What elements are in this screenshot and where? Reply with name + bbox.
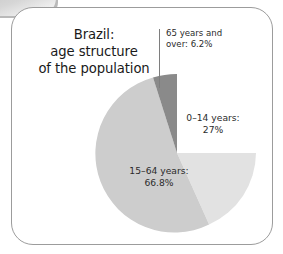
slice-label-youth-line2: 27% (184, 124, 242, 136)
title-line-2: age structure (20, 43, 168, 60)
slice-label-youth: 0–14 years: 27% (184, 112, 242, 136)
slice-label-adults: 15–64 years: 66.8% (124, 165, 194, 189)
slice-label-adults-line2: 66.8% (124, 177, 194, 189)
slice-label-adults-line1: 15–64 years: (124, 165, 194, 177)
title-line-1: Brazil: (20, 26, 168, 43)
figure-card: Brazil: age structure of the population … (11, 7, 273, 245)
page-title: Brazil: age structure of the population (20, 26, 168, 77)
title-line-3: of the population (20, 60, 168, 77)
slice-label-seniors: 65 years and over: 6.2% (166, 28, 222, 50)
pie-chart (87, 63, 267, 243)
pie-chart-svg (87, 63, 267, 243)
slice-label-youth-line1: 0–14 years: (184, 112, 242, 124)
figure-container: Brazil: age structure of the population … (0, 0, 283, 254)
figure-card-inner: Brazil: age structure of the population … (12, 8, 272, 244)
callout-leader-line (159, 29, 160, 88)
slice-label-seniors-line1: 65 years and (166, 28, 222, 39)
slice-label-seniors-line2: over: 6.2% (166, 39, 222, 50)
